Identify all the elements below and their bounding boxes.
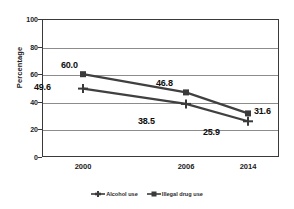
line-chart: Percentage 100 80 60 40 20 0 (0, 0, 294, 209)
x-tick-label-2000: 2000 (58, 162, 108, 171)
series-overlay (42, 19, 279, 157)
y-tickmark-0 (38, 157, 42, 158)
legend-marker-plus-icon (91, 190, 105, 198)
legend-item-alcohol-use[interactable]: Alcohol use (91, 190, 138, 198)
legend-label-illegal-drug-use: Illegal drug use (162, 191, 203, 197)
x-tick-label-2014: 2014 (223, 162, 273, 171)
data-label-drug-2014: 25.9 (203, 127, 220, 137)
y-tick-label-40: 40 (12, 99, 38, 106)
data-label-alcohol-2014: 31.6 (254, 106, 271, 116)
legend-marker-square-icon (147, 190, 161, 198)
data-label-drug-2006: 38.5 (138, 116, 155, 126)
y-tick-label-0: 0 (12, 154, 38, 161)
marker-drug-2000 (78, 84, 88, 93)
legend-item-illegal-drug-use[interactable]: Illegal drug use (147, 190, 203, 198)
data-label-alcohol-2000: 60.0 (61, 60, 78, 70)
y-tick-label-20: 20 (12, 126, 38, 133)
y-axis-tick-labels: 100 80 60 40 20 0 (8, 0, 38, 209)
marker-alcohol-2014 (245, 110, 251, 116)
data-label-alcohol-2006: 46.8 (156, 78, 173, 88)
y-tick-label-60: 60 (12, 71, 38, 78)
legend-label-alcohol-use: Alcohol use (106, 191, 138, 197)
marker-drug-2014 (243, 117, 253, 126)
data-label-drug-2000: 49.6 (34, 82, 51, 92)
marker-alcohol-2000 (80, 71, 86, 77)
x-tick-label-2006: 2006 (161, 162, 211, 171)
marker-alcohol-2006 (183, 89, 189, 95)
chart-legend: Alcohol use Illegal drug use (0, 190, 294, 198)
marker-drug-2006 (181, 99, 191, 108)
y-tick-label-80: 80 (12, 44, 38, 51)
y-tick-label-100: 100 (12, 16, 38, 23)
